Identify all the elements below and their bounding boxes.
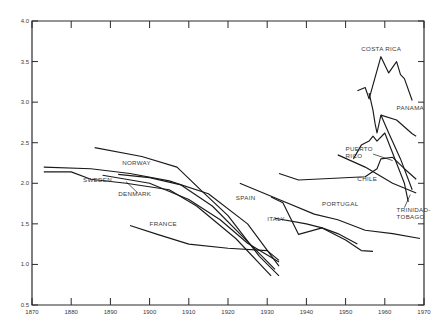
y-tick-label: 0.5 xyxy=(21,302,30,308)
x-tick-label: 1920 xyxy=(221,309,235,315)
series-line-costa-rica xyxy=(357,57,412,101)
series-line-panama xyxy=(381,115,416,136)
x-tick-label: 1910 xyxy=(182,309,196,315)
x-tick-label: 1880 xyxy=(65,309,79,315)
y-tick-label: 3.5 xyxy=(21,59,30,65)
y-tick-label: 2.5 xyxy=(21,140,30,146)
series-line-norway xyxy=(44,167,279,266)
series-line-finland-unlabeled xyxy=(95,148,279,276)
label-france: FRANCE xyxy=(150,220,177,227)
y-tick-label: 2.0 xyxy=(21,180,30,186)
x-tick-label: 1930 xyxy=(261,309,275,315)
axis-frame xyxy=(32,21,424,305)
label-italy: ITALY xyxy=(267,215,285,222)
y-tick-label: 1.0 xyxy=(21,261,30,267)
x-tick-label: 1940 xyxy=(300,309,314,315)
series-line-trinidad-tobago xyxy=(353,133,408,202)
y-tick-label: 3.0 xyxy=(21,99,30,105)
label-puerto-rico: PUERTORICO xyxy=(346,145,373,159)
y-tick-label: 4.0 xyxy=(21,18,30,24)
label-spain: SPAIN xyxy=(236,194,256,201)
label-norway: NORWAY xyxy=(122,159,151,166)
x-tick-label: 1970 xyxy=(417,309,431,315)
x-tick-label: 1960 xyxy=(378,309,392,315)
y-tick-label: 1.5 xyxy=(21,221,30,227)
x-tick-label: 1950 xyxy=(339,309,353,315)
x-tick-label: 1890 xyxy=(104,309,118,315)
label-denmark: DENMARK xyxy=(118,190,152,197)
line-chart: 1870188018901900191019201930194019501960… xyxy=(0,0,444,330)
label-panama: PANAMA xyxy=(397,104,425,111)
label-chile: CHILE xyxy=(357,175,377,182)
x-tick-label: 1870 xyxy=(25,309,39,315)
series-labels: NORWAYSWEDENDENMARKFRANCESPAINITALYPORTU… xyxy=(83,45,431,227)
label-costa-rica: COSTA RICA xyxy=(361,45,402,52)
axes: 1870188018901900191019201930194019501960… xyxy=(21,18,432,315)
series-line-france xyxy=(130,226,279,261)
label-portugal: PORTUGAL xyxy=(322,200,359,207)
label-sweden: SWEDEN xyxy=(83,176,112,183)
x-tick-label: 1900 xyxy=(143,309,157,315)
plot-area: 1870188018901900191019201930194019501960… xyxy=(0,0,444,330)
label-trinidad-tobago: TRINIDAD-TOBAGO xyxy=(397,206,431,220)
series-lines xyxy=(44,57,420,276)
